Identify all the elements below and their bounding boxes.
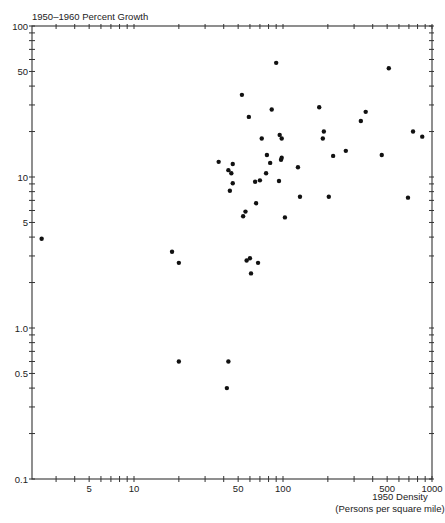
data-point bbox=[283, 215, 287, 219]
data-point bbox=[228, 189, 232, 193]
data-point bbox=[39, 237, 43, 241]
data-point bbox=[225, 386, 229, 390]
data-point bbox=[258, 178, 262, 182]
data-point bbox=[277, 179, 281, 183]
data-point bbox=[387, 66, 391, 70]
data-point bbox=[344, 149, 348, 153]
y-tick-label: 0.5 bbox=[15, 368, 28, 379]
data-point bbox=[254, 201, 258, 205]
plot-frame bbox=[32, 26, 432, 479]
y-tick-label: 1.0 bbox=[15, 323, 28, 334]
data-point bbox=[279, 156, 283, 160]
data-point bbox=[279, 136, 283, 140]
data-point bbox=[270, 107, 274, 111]
data-point bbox=[216, 160, 220, 164]
data-point bbox=[268, 161, 272, 165]
x-tick-label: 100 bbox=[275, 483, 291, 494]
y-axis-title: 1950–1960 Percent Growth bbox=[32, 11, 148, 22]
data-point bbox=[411, 129, 415, 133]
y-tick-label: 0.1 bbox=[15, 474, 28, 485]
data-point bbox=[177, 261, 181, 265]
y-tick-label: 50 bbox=[17, 66, 28, 77]
x-axis-subtitle: (Persons per square mile) bbox=[335, 503, 444, 514]
data-point bbox=[317, 105, 321, 109]
data-point bbox=[231, 162, 235, 166]
data-point bbox=[264, 171, 268, 175]
y-tick-label: 10 bbox=[17, 172, 28, 183]
data-point bbox=[249, 271, 253, 275]
x-tick-label: 50 bbox=[233, 483, 244, 494]
data-point bbox=[247, 115, 251, 119]
x-tick-label: 5 bbox=[86, 483, 91, 494]
data-point bbox=[240, 93, 244, 97]
data-point bbox=[359, 119, 363, 123]
y-tick-labels: 0.10.51.051050100 bbox=[12, 21, 28, 485]
data-point bbox=[406, 195, 410, 199]
data-point bbox=[243, 209, 247, 213]
data-point bbox=[327, 195, 331, 199]
data-point bbox=[331, 154, 335, 158]
scatter-chart: 1950–1960 Percent Growth 510501005001000… bbox=[0, 0, 445, 523]
data-point bbox=[364, 110, 368, 114]
plot-border bbox=[32, 26, 432, 479]
x-axis-title: 1950 Density bbox=[372, 491, 428, 502]
data-point bbox=[380, 153, 384, 157]
data-point bbox=[177, 359, 181, 363]
data-point bbox=[296, 165, 300, 169]
y-tick-label: 5 bbox=[23, 217, 28, 228]
data-point bbox=[253, 180, 257, 184]
data-point bbox=[226, 359, 230, 363]
data-point bbox=[256, 261, 260, 265]
data-point bbox=[170, 250, 174, 254]
data-point bbox=[231, 181, 235, 185]
data-points bbox=[39, 61, 424, 391]
data-point bbox=[420, 134, 424, 138]
data-point bbox=[321, 136, 325, 140]
data-point bbox=[274, 61, 278, 65]
axis-ticks bbox=[29, 24, 434, 482]
data-point bbox=[322, 129, 326, 133]
data-point bbox=[248, 256, 252, 260]
data-point bbox=[229, 171, 233, 175]
data-point bbox=[298, 195, 302, 199]
x-tick-label: 10 bbox=[129, 483, 140, 494]
data-point bbox=[265, 153, 269, 157]
data-point bbox=[260, 136, 264, 140]
y-tick-label: 100 bbox=[12, 21, 28, 32]
data-point bbox=[241, 214, 245, 218]
